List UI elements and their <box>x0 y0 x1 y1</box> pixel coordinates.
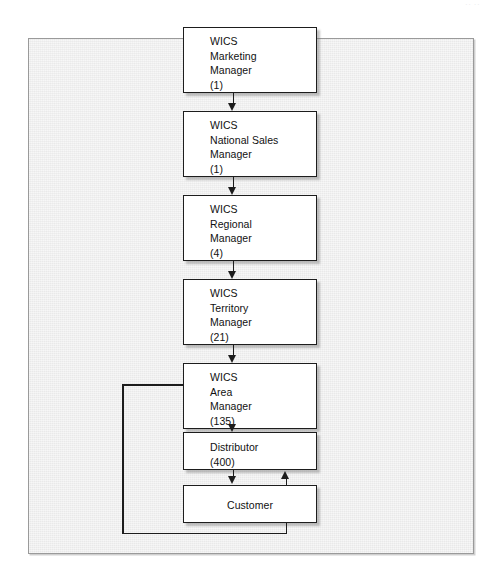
connector-arrow-national-to-regional <box>228 187 236 195</box>
connector-arrow-marketing-to-national <box>228 103 236 111</box>
node-distributor[interactable]: Distributor (400) <box>183 432 317 470</box>
node-customer-label: Customer <box>184 498 316 513</box>
node-customer[interactable]: Customer <box>183 485 317 523</box>
node-area-manager[interactable]: WICS Area Manager (135) <box>183 363 317 429</box>
node-marketing-manager[interactable]: WICS Marketing Manager (1) <box>183 27 317 93</box>
connector-arrow-regional-to-territory <box>228 271 236 279</box>
node-distributor-label: Distributor (400) <box>210 440 310 469</box>
node-regional-manager[interactable]: WICS Regional Manager (4) <box>183 195 317 261</box>
connector-arrow-distributor-to-customer <box>228 476 236 484</box>
figure-frame: WICS Marketing Manager (1) WICS National… <box>28 38 474 554</box>
node-national-sales-manager-label: WICS National Sales Manager (1) <box>210 118 310 176</box>
node-territory-manager[interactable]: WICS Territory Manager (21) <box>183 279 317 345</box>
node-territory-manager-label: WICS Territory Manager (21) <box>210 286 310 344</box>
page-header-remnant: ·· ·· <box>330 0 480 10</box>
connector-line-customer-to-distributor <box>286 478 288 485</box>
connector-arrow-area-to-distributor <box>228 424 236 432</box>
flowchart-canvas: WICS Marketing Manager (1) WICS National… <box>29 39 473 553</box>
node-area-manager-label: WICS Area Manager (135) <box>210 370 310 428</box>
feedback-loop-segment-bottom <box>122 533 287 535</box>
node-regional-manager-label: WICS Regional Manager (4) <box>210 202 310 260</box>
node-marketing-manager-label: WICS Marketing Manager (1) <box>210 34 310 92</box>
connector-arrow-territory-to-area <box>228 355 236 363</box>
feedback-loop-segment-top <box>122 384 184 386</box>
feedback-loop-segment-left <box>122 384 124 534</box>
connector-arrow-customer-to-distributor <box>281 471 289 479</box>
node-national-sales-manager[interactable]: WICS National Sales Manager (1) <box>183 111 317 177</box>
